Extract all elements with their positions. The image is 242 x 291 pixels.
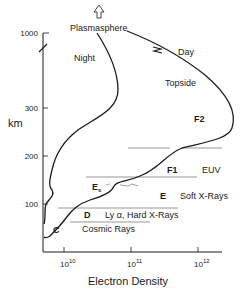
up-arrow-icon: [94, 5, 104, 18]
y-tick-100: 100: [25, 200, 39, 209]
ionosphere-diagram: 1000 300 200 100 1010 1011 1012 km Elect…: [0, 0, 242, 291]
night-label: Night: [74, 53, 96, 63]
x-tick-1e10: 1010: [60, 258, 76, 269]
y-tick-200: 200: [25, 152, 39, 161]
cosmic-rays-label: Cosmic Rays: [82, 224, 136, 234]
day-label: Day: [178, 47, 195, 57]
y-tick-1000: 1000: [20, 29, 38, 38]
soft-xrays-label: Soft X-Rays: [180, 191, 229, 201]
f1-label: F1: [167, 165, 178, 175]
euv-label: EUV: [202, 165, 221, 175]
f2-label: F2: [194, 114, 205, 124]
c-label: C: [53, 225, 60, 235]
x-tick-1e12: 1012: [194, 258, 210, 269]
e-label: E: [160, 191, 166, 201]
es-layer-marks: [120, 184, 138, 186]
topside-label: Topside: [165, 78, 196, 88]
x-tick-1e11: 1011: [127, 258, 143, 269]
lyman-hard-xrays-label: Ly α, Hard X-Rays: [105, 210, 179, 220]
x-axis-label: Electron Density: [88, 275, 169, 287]
y-axis-label: km: [8, 117, 23, 129]
y-tick-300: 300: [25, 104, 39, 113]
d-label: D: [84, 210, 91, 220]
curve-break-icon: [153, 47, 162, 53]
plasmasphere-label: Plasmasphere: [70, 23, 128, 33]
es-label: Es: [92, 182, 102, 193]
